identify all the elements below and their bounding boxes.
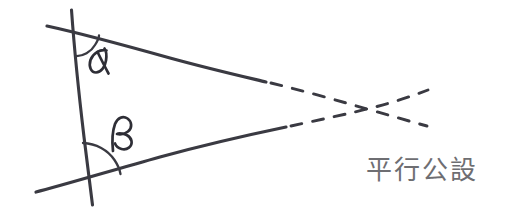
upper-ray-solid bbox=[47, 26, 266, 82]
diagram-caption: 平行公設 bbox=[366, 156, 478, 186]
alpha-angle-label bbox=[90, 49, 109, 74]
lower-ray-solid bbox=[36, 127, 286, 192]
beta-angle-label bbox=[113, 117, 132, 151]
upper-ray-dashed bbox=[271, 83, 427, 126]
diagram-canvas: 平行公設 bbox=[0, 0, 523, 211]
